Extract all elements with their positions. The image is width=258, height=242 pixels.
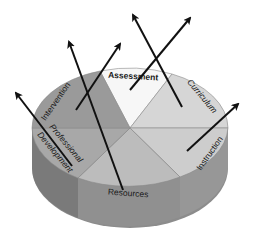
pie-diagram: Assessment Curriculum Instruction Resour… — [0, 0, 258, 242]
